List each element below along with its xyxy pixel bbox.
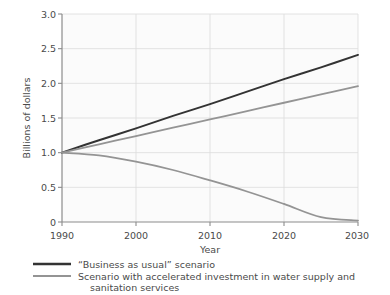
- chart-figure: 3.0 2.5 2.0 1.5 1.0 0.5 0 1990 2000 2010…: [0, 0, 390, 295]
- line-chart-svg: 3.0 2.5 2.0 1.5 1.0 0.5 0 1990 2000 2010…: [0, 0, 390, 295]
- x-tick-label-2030: 2030: [345, 230, 369, 241]
- x-tick-label-1990: 1990: [50, 230, 74, 241]
- y-tick-label-0.5: 0.5: [41, 182, 56, 193]
- y-tick-label-1.0: 1.0: [41, 147, 56, 158]
- x-axis-title: Year: [199, 244, 220, 255]
- y-tick-label-1.5: 1.5: [41, 113, 56, 124]
- legend-label-accelerated-investment-line2: sanitation services: [90, 282, 179, 293]
- x-tick-label-2000: 2000: [124, 230, 148, 241]
- x-tick-label-2020: 2020: [272, 230, 296, 241]
- y-tick-label-2.0: 2.0: [41, 78, 56, 89]
- chart-legend: “Business as usual” scenario Scenario wi…: [33, 259, 355, 294]
- y-tick-label-2.5: 2.5: [41, 43, 56, 54]
- y-tick-label-3.0: 3.0: [41, 9, 56, 20]
- y-tick-label-0: 0: [50, 217, 56, 228]
- y-axis-title: Billions of dollars: [21, 78, 32, 159]
- legend-label-accelerated-investment-line1: Scenario with accelerated investment in …: [78, 271, 355, 282]
- legend-label-business-as-usual: “Business as usual” scenario: [78, 259, 215, 270]
- x-axis-tick-marks: [62, 222, 358, 226]
- x-tick-label-2010: 2010: [198, 230, 222, 241]
